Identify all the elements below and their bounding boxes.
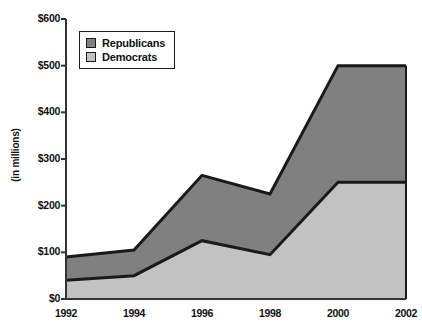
stacked-area-chart: (in millions) $600$500$400$300$200$100$0…	[0, 0, 422, 331]
legend-item-democrats: Democrats	[86, 50, 165, 64]
chart-legend: Republicans Democrats	[79, 31, 175, 69]
plot-area	[0, 0, 422, 331]
legend-swatch-republicans	[86, 38, 96, 48]
legend-swatch-democrats	[86, 52, 96, 62]
legend-label-republicans: Republicans	[102, 37, 165, 49]
legend-item-republicans: Republicans	[86, 36, 165, 50]
legend-label-democrats: Democrats	[102, 51, 157, 63]
